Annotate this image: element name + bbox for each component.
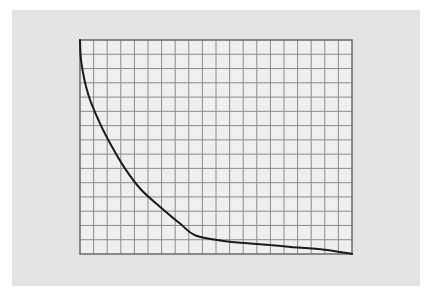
line-chart — [0, 0, 435, 297]
figure-canvas — [0, 0, 435, 297]
grid-lines — [80, 40, 352, 254]
